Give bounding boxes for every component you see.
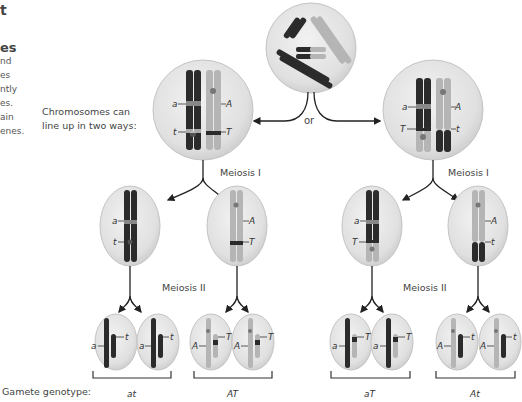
arrow-meiosis1-right-b bbox=[433, 178, 458, 200]
allele-label: A bbox=[225, 99, 232, 109]
metaphase-cell-right: a A T t bbox=[383, 60, 483, 160]
allele-label: a bbox=[112, 216, 118, 226]
arrow-to-left-arrangement bbox=[254, 92, 308, 121]
gamete-cell: A T bbox=[232, 314, 275, 370]
allele-label: A bbox=[436, 341, 443, 351]
gamete-cell: a t bbox=[91, 314, 137, 370]
allele-label: t bbox=[491, 237, 495, 247]
allele-label: t bbox=[113, 237, 117, 247]
parent-cell bbox=[266, 3, 356, 93]
gamete-genotype-AT: AT bbox=[226, 389, 240, 399]
allele-label: a bbox=[402, 102, 408, 112]
allele-label: t bbox=[125, 332, 129, 342]
allele-label: a bbox=[373, 341, 379, 351]
arrow-meiosis1-left-a bbox=[168, 160, 203, 200]
allele-label: a bbox=[332, 341, 338, 351]
allele-label: a bbox=[172, 99, 178, 109]
allele-label: a bbox=[354, 216, 360, 226]
gamete-cell: A t bbox=[436, 314, 478, 370]
gamete-genotype-label: Gamete genotype: bbox=[2, 386, 91, 397]
gamete-genotype-At: At bbox=[469, 389, 480, 399]
meiosis1-cell-aT: a T bbox=[342, 186, 402, 266]
allele-label: t bbox=[170, 332, 174, 342]
meiosis1-cell-At: A t bbox=[448, 186, 508, 266]
gamete-cell: A T bbox=[190, 314, 233, 370]
gamete-cell: a T bbox=[371, 314, 413, 370]
meiosis-1-label-right: Meiosis I bbox=[448, 167, 489, 178]
meiosis1-cell-AT: A T bbox=[207, 186, 267, 266]
allele-label: t bbox=[513, 332, 517, 342]
allele-label: A bbox=[479, 341, 486, 351]
allele-label: A bbox=[248, 216, 255, 226]
metaphase-cell-left: a A t T bbox=[153, 60, 253, 160]
gamete-cell: a T bbox=[330, 314, 372, 370]
meiosis-2-label-right: Meiosis II bbox=[403, 282, 447, 293]
allele-label: A bbox=[191, 341, 198, 351]
gamete-cell: A t bbox=[479, 314, 521, 370]
allele-label: a bbox=[139, 341, 145, 351]
meiosis-2-label-left: Meiosis II bbox=[162, 282, 206, 293]
gamete-genotype-aT: aT bbox=[364, 389, 377, 399]
allele-label: t bbox=[173, 127, 177, 137]
allele-label: t bbox=[471, 332, 475, 342]
genotype-brackets bbox=[93, 371, 515, 378]
meiosis-1-label-left: Meiosis I bbox=[220, 167, 261, 178]
arrow-meiosis1-right-a bbox=[403, 160, 433, 200]
allele-label: A bbox=[233, 341, 240, 351]
meiosis-diagram: or a A t T bbox=[0, 0, 522, 402]
or-label: or bbox=[304, 115, 315, 126]
gamete-cell: a t bbox=[137, 314, 179, 370]
allele-label: a bbox=[91, 341, 97, 351]
allele-label: A bbox=[490, 216, 497, 226]
meiosis1-cell-at: a t bbox=[100, 186, 160, 266]
allele-label: t bbox=[456, 124, 460, 134]
arrow-to-right-arrangement bbox=[314, 92, 380, 121]
gamete-genotype-at: at bbox=[127, 389, 137, 399]
